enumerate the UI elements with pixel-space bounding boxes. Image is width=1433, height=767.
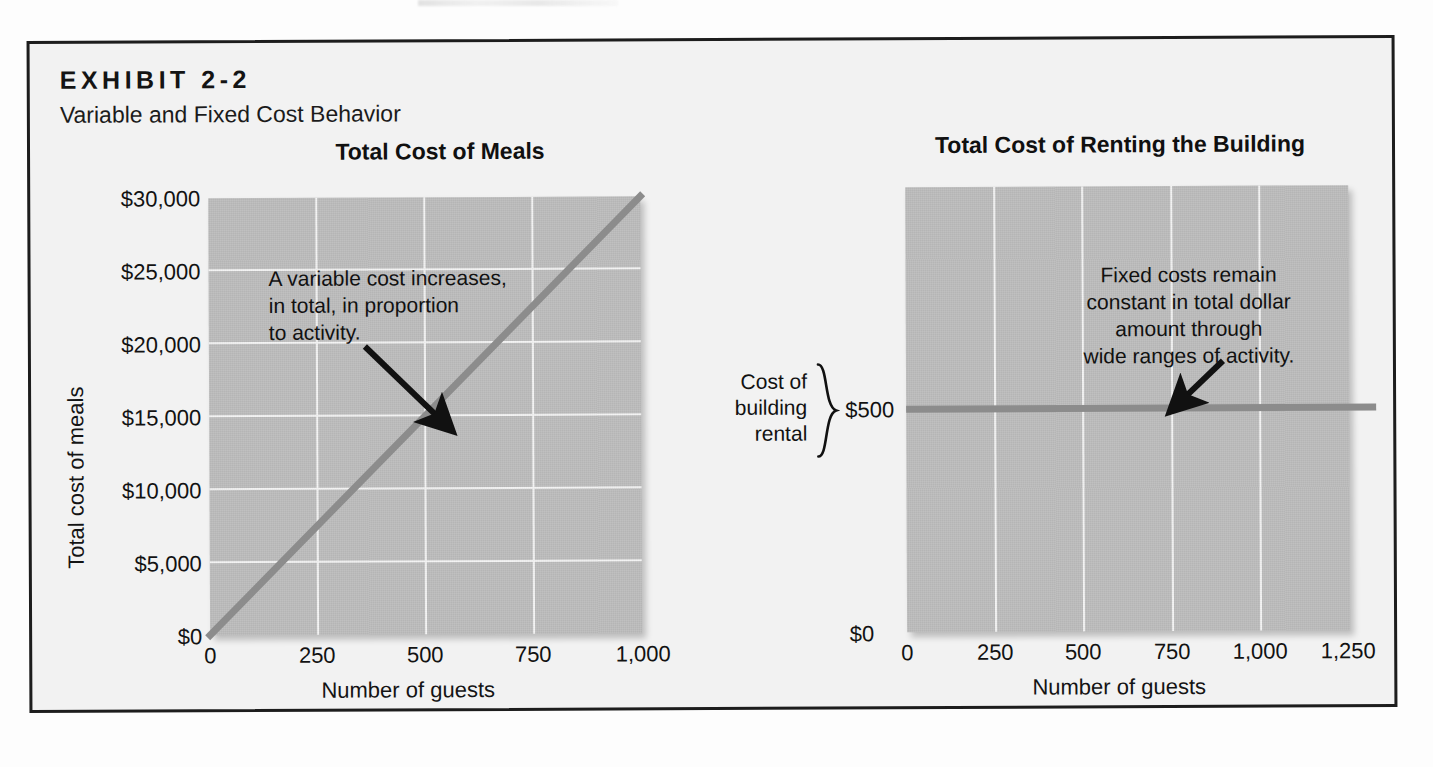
right-chart-title: Total Cost of Renting the Building bbox=[840, 130, 1394, 159]
right-xtick-0: 0 bbox=[877, 640, 937, 666]
left-ytick-10000: $10,000 bbox=[79, 478, 201, 505]
left-ytick-15000: $15,000 bbox=[79, 405, 201, 432]
left-xtick-750: 750 bbox=[503, 642, 563, 668]
left-ytick-30000: $30,000 bbox=[78, 186, 200, 213]
right-x-axis-title: Number of guests bbox=[1032, 674, 1206, 701]
left-x-axis-title: Number of guests bbox=[321, 677, 495, 704]
right-annotation: Fixed costs remain constant in total dol… bbox=[1054, 260, 1324, 369]
exhibit-frame: EXHIBIT 2-2 Variable and Fixed Cost Beha… bbox=[27, 35, 1398, 713]
right-xtick-750: 750 bbox=[1142, 639, 1202, 665]
left-annotation-arrow-icon bbox=[361, 342, 492, 463]
scanned-page: EXHIBIT 2-2 Variable and Fixed Cost Beha… bbox=[0, 0, 1433, 767]
left-chart-title: Total Cost of Meals bbox=[180, 137, 700, 166]
right-ytick-0: $0 bbox=[822, 621, 874, 647]
left-y-axis-title: Total cost of meals bbox=[63, 387, 90, 569]
right-xtick-1250: 1,250 bbox=[1304, 638, 1392, 664]
right-xtick-250: 250 bbox=[965, 640, 1025, 666]
left-xtick-500: 500 bbox=[395, 642, 455, 668]
right-annotation-arrow-icon bbox=[1171, 357, 1261, 437]
right-fixed-cost-line bbox=[906, 400, 1376, 416]
left-annotation: A variable cost increases, in total, in … bbox=[269, 264, 507, 346]
left-xtick-1000: 1,000 bbox=[599, 641, 687, 667]
exhibit-subtitle: Variable and Fixed Cost Behavior bbox=[60, 100, 401, 128]
right-xtick-500: 500 bbox=[1053, 639, 1113, 665]
right-brace-label: Cost of building rental bbox=[679, 369, 807, 448]
curly-brace-icon bbox=[815, 362, 841, 458]
exhibit-label: EXHIBIT 2-2 bbox=[60, 65, 251, 95]
left-ytick-5000: $5,000 bbox=[80, 551, 202, 578]
page-top-bleed-artifact bbox=[418, 0, 618, 6]
left-ytick-20000: $20,000 bbox=[79, 332, 201, 359]
left-xtick-0: 0 bbox=[180, 643, 240, 669]
right-xtick-1000: 1,000 bbox=[1216, 638, 1304, 664]
left-ytick-25000: $25,000 bbox=[78, 259, 200, 286]
right-value-label: $500 bbox=[845, 397, 894, 423]
left-xtick-250: 250 bbox=[287, 643, 347, 669]
